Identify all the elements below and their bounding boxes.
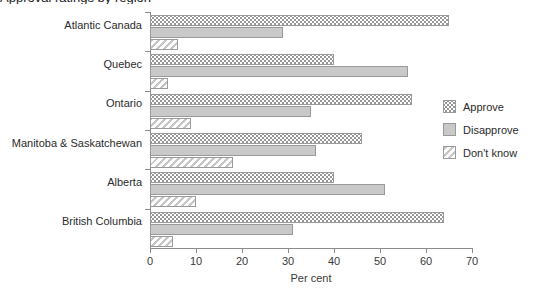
x-tick-label: 60 — [406, 255, 446, 267]
bar — [150, 15, 449, 26]
bar — [150, 145, 316, 156]
y-tick-mark — [145, 209, 150, 210]
bar — [150, 172, 334, 183]
chart-title-text: Approval ratings by region — [0, 0, 330, 4]
bar — [150, 106, 311, 117]
y-axis-category-label: Manitoba & Saskatchewan — [0, 137, 142, 149]
bar-chart: Approval ratings by region 0102030405060… — [0, 0, 551, 292]
legend-swatch-dontknow-icon — [443, 146, 456, 159]
y-axis-category-label: Ontario — [0, 97, 142, 109]
x-tick-mark — [242, 248, 243, 253]
bar — [150, 157, 233, 168]
x-axis-line — [150, 248, 472, 249]
legend-label-disapprove: Disapprove — [463, 124, 519, 136]
chart-title-cropped: Approval ratings by region — [0, 0, 330, 4]
x-tick-label: 0 — [130, 255, 170, 267]
x-tick-mark — [380, 248, 381, 253]
x-tick-label: 20 — [222, 255, 262, 267]
legend-label-approve: Approve — [463, 101, 504, 113]
y-tick-mark — [145, 130, 150, 131]
bar — [150, 78, 168, 89]
y-tick-mark — [145, 91, 150, 92]
bar — [150, 236, 173, 247]
legend-item-dontknow: Don't know — [443, 146, 519, 159]
bar — [150, 66, 408, 77]
bar — [150, 184, 385, 195]
x-tick-label: 50 — [360, 255, 400, 267]
legend-swatch-disapprove-icon — [443, 123, 456, 136]
bar — [150, 133, 362, 144]
x-tick-mark — [288, 248, 289, 253]
x-tick-label: 30 — [268, 255, 308, 267]
y-tick-mark — [145, 169, 150, 170]
x-tick-mark — [472, 248, 473, 253]
bar — [150, 118, 191, 129]
bar — [150, 27, 283, 38]
legend-item-approve: Approve — [443, 100, 519, 113]
x-tick-label: 70 — [452, 255, 492, 267]
chart-legend: Approve Disapprove Don't know — [443, 100, 519, 169]
legend-item-disapprove: Disapprove — [443, 123, 519, 136]
x-tick-mark — [334, 248, 335, 253]
y-tick-mark — [145, 12, 150, 13]
bar — [150, 196, 196, 207]
bar — [150, 212, 444, 223]
x-tick-label: 40 — [314, 255, 354, 267]
x-tick-label: 10 — [176, 255, 216, 267]
y-tick-mark — [145, 51, 150, 52]
bar — [150, 54, 334, 65]
x-tick-mark — [196, 248, 197, 253]
x-tick-mark — [150, 248, 151, 253]
legend-swatch-approve-icon — [443, 100, 456, 113]
y-axis-category-label: British Columbia — [0, 215, 142, 227]
bar — [150, 94, 412, 105]
legend-label-dontknow: Don't know — [463, 147, 517, 159]
bar — [150, 39, 178, 50]
x-axis-title: Per cent — [150, 272, 472, 284]
y-axis-category-label: Alberta — [0, 176, 142, 188]
x-tick-mark — [426, 248, 427, 253]
y-axis-category-label: Quebec — [0, 58, 142, 70]
y-axis-category-label: Atlantic Canada — [0, 19, 142, 31]
bar — [150, 224, 293, 235]
